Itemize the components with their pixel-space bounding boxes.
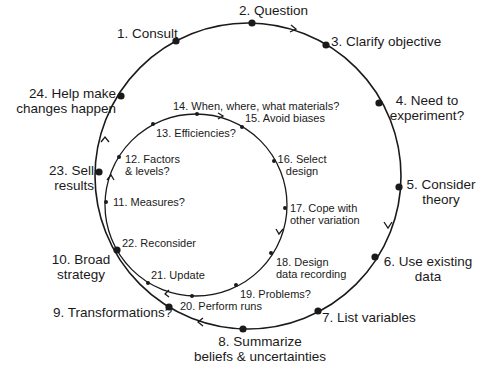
step-24-line2: changes happen bbox=[8, 101, 116, 116]
step-8-label: 8. Summarize beliefs & uncertainties bbox=[185, 334, 335, 364]
step-18-label: 18. Design data recording bbox=[276, 256, 346, 281]
step-14-label: 14. When, where, what materials? bbox=[173, 100, 339, 112]
step-7-label: 7. List variables bbox=[322, 310, 416, 325]
node-19 bbox=[234, 283, 238, 287]
step-12-label: 12. Factors & levels? bbox=[125, 153, 180, 178]
step-8-line2: beliefs & uncertainties bbox=[185, 349, 335, 364]
step-5-line1: 5. Consider bbox=[402, 177, 480, 192]
node-13 bbox=[151, 122, 155, 126]
step-17-line1: 17. Cope with bbox=[290, 202, 360, 214]
step-9-label: 9. Transformations? bbox=[53, 305, 172, 320]
step-21-label: 21. Update bbox=[151, 269, 205, 281]
step-4-line1: 4. Need to bbox=[386, 93, 468, 108]
step-4-line2: experiment? bbox=[386, 108, 468, 123]
step-16-line1: 16. Select bbox=[270, 153, 334, 165]
step-15-label: 15. Avoid biases bbox=[245, 112, 325, 124]
step-5-line2: theory bbox=[402, 192, 480, 207]
step-2-label: 2. Question bbox=[239, 3, 308, 18]
step-23-line1: 23. Sell bbox=[20, 163, 94, 178]
step-16-line2: design bbox=[270, 165, 334, 177]
step-20-label: 20. Perform runs bbox=[180, 300, 262, 312]
step-18-line2: data recording bbox=[276, 268, 346, 280]
node-6 bbox=[371, 253, 378, 260]
step-1-label: 1. Consult bbox=[117, 26, 178, 41]
step-6-line1: 6. Use existing bbox=[380, 254, 476, 269]
step-23-label: 23. Sell results bbox=[20, 163, 94, 193]
step-10-line2: strategy bbox=[50, 267, 112, 282]
node-12 bbox=[117, 155, 121, 159]
step-23-line2: results bbox=[20, 178, 94, 193]
step-6-line2: data bbox=[380, 269, 476, 284]
step-18-line1: 18. Design bbox=[276, 256, 346, 268]
node-3 bbox=[322, 41, 329, 48]
node-8 bbox=[239, 325, 246, 332]
step-22-label: 22. Reconsider bbox=[122, 237, 196, 249]
step-16-label: 16. Select design bbox=[270, 153, 334, 178]
node-21 bbox=[146, 281, 150, 285]
node-4 bbox=[375, 99, 382, 106]
step-11-label: 11. Measures? bbox=[113, 196, 185, 208]
node-7 bbox=[314, 307, 321, 314]
arrow-outer-right bbox=[384, 222, 392, 228]
step-5-label: 5. Consider theory bbox=[402, 177, 480, 207]
node-15 bbox=[240, 125, 244, 129]
step-24-label: 24. Help make changes happen bbox=[8, 86, 116, 116]
node-24 bbox=[117, 92, 124, 99]
node-11 bbox=[104, 200, 108, 204]
step-6-label: 6. Use existing data bbox=[380, 254, 476, 284]
step-10-line1: 10. Broad bbox=[50, 252, 112, 267]
arrow-outer-left bbox=[101, 137, 109, 142]
arrow-inner-left bbox=[107, 175, 114, 180]
step-8-line1: 8. Summarize bbox=[185, 334, 335, 349]
step-12-line1: 12. Factors bbox=[125, 153, 180, 165]
step-4-label: 4. Need to experiment? bbox=[386, 93, 468, 123]
node-10 bbox=[113, 246, 120, 253]
step-10-label: 10. Broad strategy bbox=[50, 252, 112, 282]
node-18 bbox=[269, 251, 273, 255]
node-20 bbox=[190, 294, 194, 298]
step-24-line1: 24. Help make bbox=[8, 86, 116, 101]
step-19-label: 19. Problems? bbox=[240, 288, 311, 300]
node-14 bbox=[195, 112, 199, 116]
step-12-line2: & levels? bbox=[125, 165, 180, 177]
node-2 bbox=[248, 19, 255, 26]
step-17-label: 17. Cope with other variation bbox=[290, 202, 360, 227]
step-3-label: 3. Clarify objective bbox=[331, 34, 441, 49]
step-13-label: 13. Efficiencies? bbox=[156, 127, 236, 139]
step-17-line2: other variation bbox=[290, 214, 360, 226]
node-23 bbox=[95, 168, 102, 175]
node-17 bbox=[283, 206, 287, 210]
